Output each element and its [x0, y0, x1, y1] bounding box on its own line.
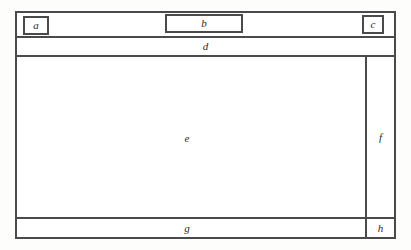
region-h-label: h — [378, 223, 384, 234]
header-band: a b c — [17, 13, 394, 38]
region-g-footer-band: g — [17, 219, 367, 237]
region-b-header-center-box: b — [165, 14, 243, 33]
content-band: e f — [17, 57, 394, 219]
region-a-label: a — [33, 20, 39, 31]
region-a-logo-box: a — [23, 16, 49, 35]
region-f-label: f — [379, 132, 382, 143]
page-frame: a b c d e f g — [15, 11, 396, 239]
region-h-footer-right-cell: h — [367, 219, 394, 237]
region-g-label: g — [184, 223, 190, 234]
region-d-navigation-band: d — [17, 38, 394, 57]
footer-band: g h — [17, 219, 394, 237]
region-c-label: c — [371, 19, 376, 30]
region-e-label: e — [185, 133, 190, 144]
region-f-right-sidebar: f — [367, 57, 394, 217]
layout-wireframe-diagram: a b c d e f g — [0, 0, 411, 250]
region-c-header-right-box: c — [362, 15, 384, 34]
region-e-main-content-area: e — [17, 57, 367, 217]
region-d-label: d — [203, 41, 209, 52]
region-b-label: b — [201, 18, 207, 29]
